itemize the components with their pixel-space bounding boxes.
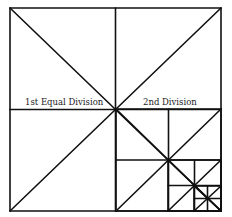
square-division-diagram xyxy=(0,0,232,217)
label-first-equal-division: 1st Equal Division xyxy=(25,98,103,107)
label-second-division: 2nd Division xyxy=(143,98,197,107)
